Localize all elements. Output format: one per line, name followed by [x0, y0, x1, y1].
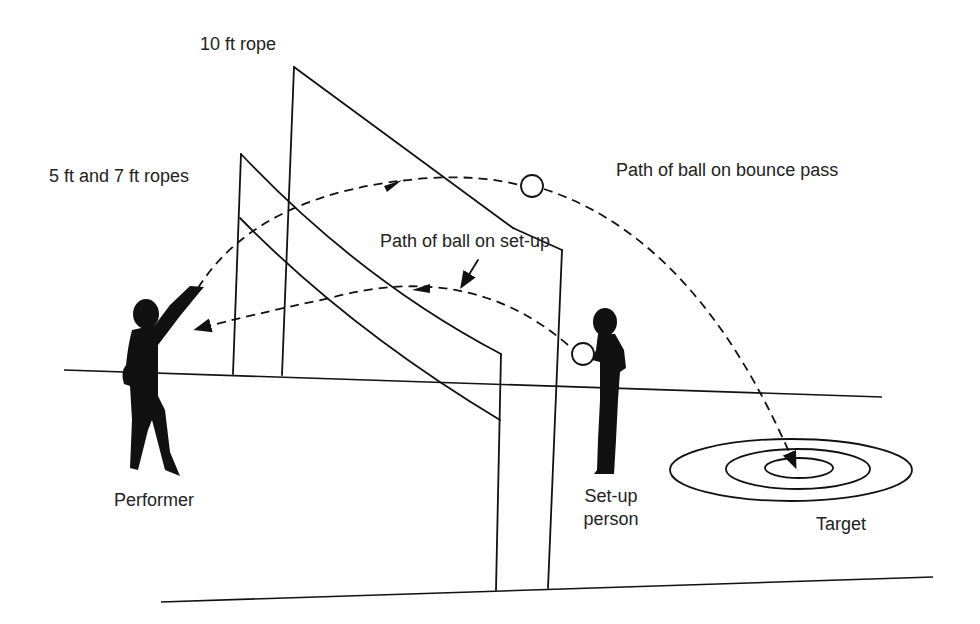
drill-diagram: 10 ft rope 5 ft and 7 ft ropes Path of b…: [0, 0, 980, 624]
label-setup-path: Path of ball on set-up: [380, 231, 550, 251]
setup-person-figure: [592, 308, 626, 474]
label-setup-person: Set-up person: [581, 486, 641, 529]
target-rings: [670, 439, 912, 501]
pole-10ft-right: [548, 250, 562, 588]
target-ring-inner: [765, 458, 833, 478]
target-ring-middle: [726, 449, 870, 489]
ball-held: [572, 343, 594, 365]
setup-label-pointer: [462, 260, 478, 286]
label-setup-person-line1: Set-up: [581, 486, 641, 506]
label-target: Target: [816, 514, 866, 534]
performer-figure: [122, 286, 204, 476]
pole-10ft-left: [282, 67, 294, 375]
label-setup-person-line2: person: [581, 509, 641, 529]
label-5ft-7ft-ropes: 5 ft and 7 ft ropes: [49, 166, 189, 186]
label-10ft-rope: 10 ft rope: [200, 34, 276, 54]
label-bounce-pass-path: Path of ball on bounce pass: [616, 160, 838, 180]
bounce-pass-path-descent: [544, 189, 795, 466]
setup-arrow-icon: [412, 284, 430, 293]
ropes-5ft-7ft: [233, 154, 501, 590]
ball-in-flight: [521, 175, 543, 197]
floor-line-front: [161, 577, 933, 602]
setup-path: [197, 286, 568, 345]
pole-5-7-right: [496, 354, 501, 590]
rope-10ft-assembly: [282, 67, 562, 588]
label-performer: Performer: [114, 490, 194, 510]
pole-5-7-left: [233, 154, 241, 374]
rope-10ft: [294, 67, 513, 228]
rope-7ft: [241, 154, 501, 354]
